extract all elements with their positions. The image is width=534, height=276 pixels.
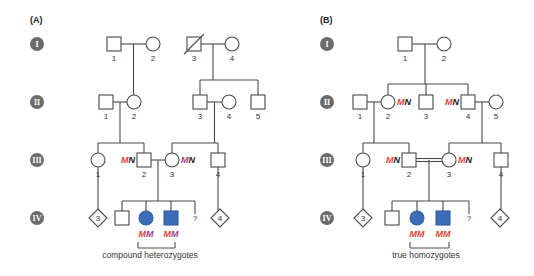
individual-II-2: 2 (127, 95, 141, 121)
genotype-label: MN (445, 97, 460, 107)
individual-III-1: 1 (91, 153, 105, 179)
genotype-label: MN (181, 155, 196, 165)
unknown-offspring: ? (467, 214, 472, 223)
individual-number: 2 (132, 112, 137, 121)
allele: N (189, 155, 196, 165)
individual-II-5: 5 (489, 95, 503, 121)
individual-number: 3 (424, 112, 429, 121)
male-square (211, 153, 225, 167)
generation-label: I (35, 40, 38, 49)
individual-IV-3: MM (164, 211, 180, 239)
unknown-offspring: ? (193, 214, 198, 223)
individual-number: 2 (142, 170, 147, 179)
generation-marker-III: III (320, 153, 334, 167)
female-circle (356, 153, 370, 167)
individual-III-2: 2MN (386, 153, 416, 179)
individual-number: 5 (256, 112, 261, 121)
individual-number: 1 (361, 170, 366, 179)
genotype-label: MM (410, 229, 426, 239)
individual-II-4: 4 (222, 95, 236, 121)
male-square (137, 153, 151, 167)
generation-marker-III: III (30, 153, 44, 167)
individual-number: 4 (227, 112, 232, 121)
individual-number: 5 (494, 112, 499, 121)
individual-number: 3 (192, 54, 197, 63)
individual-number: 3 (447, 170, 452, 179)
individual-III-4: 4 (494, 153, 508, 179)
individual-II-5: 5 (251, 95, 265, 121)
individual-number: 2 (407, 170, 412, 179)
female-circle (127, 95, 141, 109)
female-circle (222, 95, 236, 109)
female-circle (489, 95, 503, 109)
allele: N (453, 97, 460, 107)
individual-II-4: 4MN (445, 95, 475, 121)
individual-I-2: 2 (437, 37, 451, 63)
allele: M (443, 229, 451, 239)
allele: N (129, 155, 136, 165)
individual-number: 3 (170, 170, 175, 179)
individual-I-3: 3 (184, 34, 204, 63)
individual-I-1: 1 (107, 37, 121, 63)
panel-label: (A) (30, 15, 43, 25)
female-circle (225, 37, 239, 51)
generation-marker-IV: IV (320, 211, 334, 225)
genotype-label: MN (386, 155, 401, 165)
individual-I-2: 2 (146, 37, 160, 63)
allele: N (466, 155, 473, 165)
female-circle (442, 153, 456, 167)
individual-II-1: 1 (353, 95, 367, 121)
generation-marker-I: I (30, 37, 44, 51)
male-square (107, 37, 121, 51)
female-circle (437, 37, 451, 51)
male-square (419, 95, 433, 109)
genotype-label: MN (121, 155, 136, 165)
offspring-count: 4 (498, 214, 503, 223)
individual-IV-1 (385, 211, 399, 225)
individual-IV-q: ? (193, 214, 198, 223)
genotype-label: MM (164, 229, 180, 239)
individual-II-1: 1 (99, 95, 113, 121)
individual-III-3: 3MN (165, 153, 196, 179)
individual-IV-2: MM (410, 211, 426, 239)
individual-number: 1 (104, 112, 109, 121)
individual-number: 4 (466, 112, 471, 121)
affected-male-square (436, 211, 450, 225)
genotype-label: MM (139, 229, 155, 239)
generation-label: III (322, 156, 331, 165)
male-square (99, 95, 113, 109)
male-square (461, 95, 475, 109)
male-square (494, 153, 508, 167)
individual-II-2: 2MN (381, 95, 412, 121)
generation-label: II (324, 98, 330, 107)
individual-number: 4 (230, 54, 235, 63)
offspring-count: 3 (96, 214, 101, 223)
offspring-count: 3 (361, 214, 366, 223)
genotype-label: MM (436, 229, 452, 239)
individual-number: 3 (198, 112, 203, 121)
panel-caption: compound heterozygotes (102, 250, 197, 260)
allele: M (146, 229, 154, 239)
male-square (251, 95, 265, 109)
male-square (385, 211, 399, 225)
individual-IV-3: MM (436, 211, 452, 239)
individual-number: 1 (358, 112, 363, 121)
individual-III-2: 2MN (121, 153, 151, 179)
panel-b: (B)IIIIIIIV1212MN34MN512MN3MN43MMMM?4tru… (320, 15, 509, 260)
generation-label: III (32, 156, 41, 165)
individual-III-1: 1 (356, 153, 370, 179)
individual-number: 1 (403, 54, 408, 63)
offspring-count: 4 (218, 214, 223, 223)
allele: M (417, 229, 425, 239)
pedigree-canvas: (A)IIIIIIIV12341234512MN3MN43MMMM?4compo… (0, 0, 534, 276)
pedigree-figure: (A)IIIIIIIV12341234512MN3MN43MMMM?4compo… (0, 0, 534, 276)
individual-number: 1 (112, 54, 117, 63)
allele: M (171, 229, 179, 239)
female-circle (91, 153, 105, 167)
individual-IV-q: ? (467, 214, 472, 223)
individual-number: 1 (96, 170, 101, 179)
individual-number: 4 (499, 170, 504, 179)
individual-IV-2: MM (139, 211, 155, 239)
caption-bracket (138, 242, 175, 248)
generation-label: IV (323, 214, 332, 223)
